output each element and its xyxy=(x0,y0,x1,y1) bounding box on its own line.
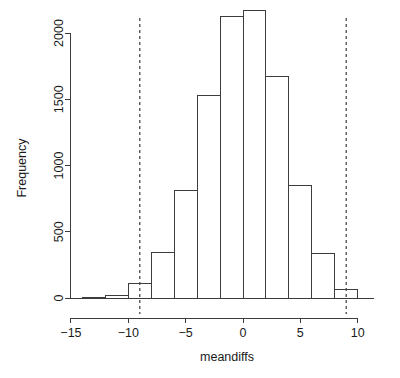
x-tick-labels: −15−10−50510 xyxy=(60,326,364,340)
y-tick-label: 2000 xyxy=(52,19,66,47)
histogram-bar xyxy=(266,77,289,298)
histogram-plot: 0500100015002000 −15−10−50510 meandiffs … xyxy=(0,0,400,378)
y-tick-label: 0 xyxy=(52,294,66,301)
y-axis-title: Frequency xyxy=(15,138,29,198)
histogram-bar xyxy=(174,190,197,298)
histogram-bar xyxy=(289,185,312,298)
histogram-bar xyxy=(312,253,335,298)
histogram-bar xyxy=(243,10,266,298)
x-tick-label: −15 xyxy=(60,326,81,340)
plot-canvas: 0500100015002000 −15−10−50510 meandiffs … xyxy=(0,0,400,378)
x-tick-label: 5 xyxy=(297,326,304,340)
x-tick-label: 10 xyxy=(351,326,365,340)
x-axis xyxy=(66,298,373,323)
histogram-bar xyxy=(197,95,220,298)
x-axis-title: meandiffs xyxy=(200,350,254,364)
x-tick-label: −5 xyxy=(179,326,193,340)
histogram-bar xyxy=(220,16,243,298)
x-tick-label: −10 xyxy=(118,326,139,340)
y-tick-label: 1000 xyxy=(52,152,66,180)
x-tick-label: 0 xyxy=(240,326,247,340)
y-tick-label: 500 xyxy=(52,221,66,242)
histogram-bar xyxy=(151,252,174,298)
y-tick-labels: 0500100015002000 xyxy=(52,19,66,301)
histogram-bars xyxy=(82,10,357,298)
y-tick-label: 1500 xyxy=(52,85,66,113)
